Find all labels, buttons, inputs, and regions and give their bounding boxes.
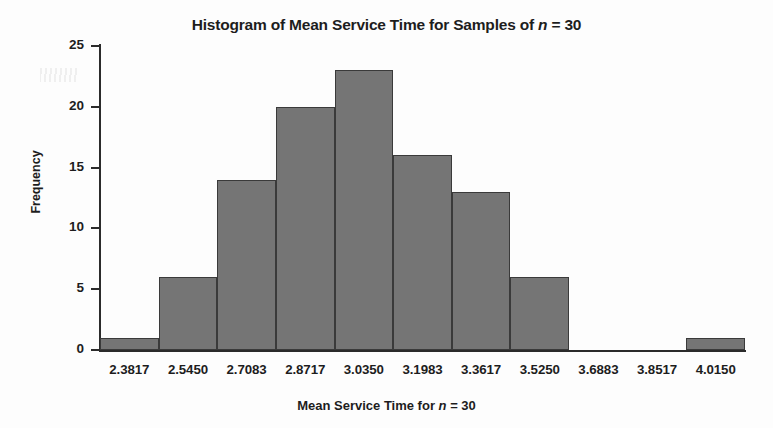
x-axis-tick-label: 4.0150 (676, 362, 756, 377)
chart-title-suffix: = 30 (547, 16, 581, 33)
y-axis-tick-label: 5 (24, 280, 84, 295)
histogram-bar (452, 192, 511, 350)
histogram-bar (100, 338, 159, 350)
y-axis-tick (91, 167, 100, 169)
y-axis-tick (91, 349, 100, 351)
y-axis-tick-label: 15 (24, 159, 84, 174)
histogram-bar (276, 107, 335, 350)
histogram-bar (686, 338, 745, 350)
y-axis-tick (91, 106, 100, 108)
y-axis-tick-label: 25 (24, 37, 84, 52)
chart-title-variable: n (538, 16, 547, 33)
x-axis-title: Mean Service Time for n = 30 (0, 398, 773, 413)
y-axis-tick-label: 0 (24, 341, 84, 356)
x-axis-title-variable: n (439, 398, 447, 413)
x-axis-title-prefix: Mean Service Time for (297, 398, 438, 413)
histogram-bar (217, 180, 276, 350)
histogram-figure: Histogram of Mean Service Time for Sampl… (0, 0, 773, 428)
scan-artifact (40, 68, 78, 82)
y-axis-tick-label: 20 (24, 98, 84, 113)
histogram-bar (510, 277, 569, 350)
y-axis-tick (91, 45, 100, 47)
histogram-bar (393, 155, 452, 350)
histogram-bar (159, 277, 218, 350)
y-axis-tick (91, 288, 100, 290)
plot-area (100, 46, 745, 350)
y-axis-tick (91, 227, 100, 229)
chart-title-prefix: Histogram of Mean Service Time for Sampl… (192, 16, 538, 33)
histogram-bar (335, 70, 394, 350)
x-axis-title-suffix: = 30 (447, 398, 476, 413)
chart-title: Histogram of Mean Service Time for Sampl… (0, 16, 773, 34)
x-axis-line (99, 350, 746, 352)
y-axis-tick-label: 10 (24, 219, 84, 234)
